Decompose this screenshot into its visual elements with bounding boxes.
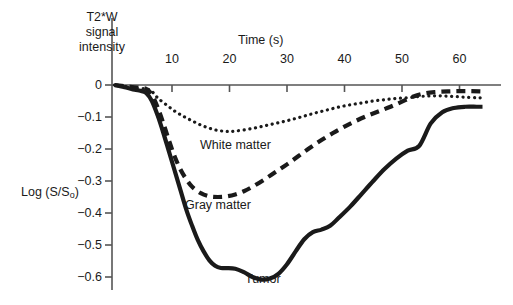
series-line-tumor (115, 85, 483, 280)
y-axis-title-subscript: o (70, 190, 75, 200)
y-tick-label: −0.3 (62, 174, 102, 189)
series-label-tumor: Tumor (245, 272, 281, 287)
y-tick-label: −0.2 (62, 142, 102, 157)
x-tick-label: 10 (165, 52, 179, 67)
series-label-gray-matter: Gray matter (185, 198, 251, 213)
signal-intensity-time-curve-figure: T2*W signal intensity Time (s) Log (S/So… (0, 0, 513, 305)
y-tick-label: −0.4 (62, 206, 102, 221)
x-tick-label: 50 (395, 52, 409, 67)
x-tick-label: 20 (223, 52, 237, 67)
series-label-white-matter: White matter (200, 138, 271, 153)
secondary-y-axis-title: T2*W signal intensity (71, 10, 133, 54)
y-tick-label: 0 (62, 78, 102, 93)
y-tick-label: −0.1 (62, 110, 102, 125)
data-series-group (115, 85, 483, 280)
x-axis-title: Time (s) (238, 33, 283, 48)
series-line-gray-matter (115, 85, 483, 197)
x-tick-label: 30 (280, 52, 294, 67)
y-tick-label: −0.6 (62, 270, 102, 285)
x-tick-label: 40 (338, 52, 352, 67)
x-tick-label: 60 (453, 52, 467, 67)
y-tick-label: −0.5 (62, 238, 102, 253)
